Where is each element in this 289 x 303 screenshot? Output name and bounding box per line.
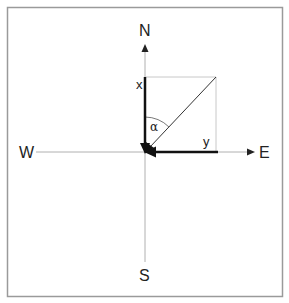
x-component-label: x (136, 78, 143, 91)
west-label: W (19, 145, 34, 161)
east-arrowhead-icon (247, 149, 255, 156)
north-label: N (139, 23, 151, 39)
north-arrowhead-icon (142, 44, 149, 52)
east-label: E (259, 145, 270, 161)
angle-alpha-label: α (150, 121, 158, 133)
compass-diagram: N S E W x y α (0, 0, 289, 303)
y-component-label: y (203, 135, 210, 148)
diagram-canvas (0, 0, 289, 303)
south-label: S (139, 268, 150, 284)
